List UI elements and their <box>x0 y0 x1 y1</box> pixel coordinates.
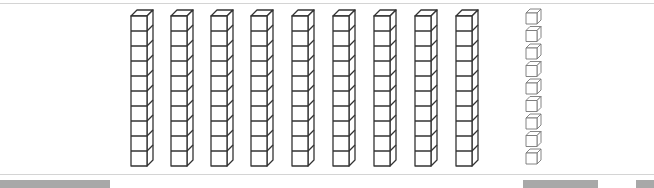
unit-cube <box>526 97 541 112</box>
scrollbar-segment[interactable] <box>0 180 110 188</box>
tens-rod <box>171 10 193 166</box>
tens-rod <box>292 10 314 166</box>
tens-rod <box>456 10 478 166</box>
tens-rod <box>415 10 437 166</box>
unit-cube <box>526 114 541 129</box>
tens-rod <box>374 10 396 166</box>
tens-rod <box>251 10 273 166</box>
unit-cube <box>526 132 541 147</box>
unit-cube <box>526 9 541 24</box>
tens-rod <box>211 10 233 166</box>
base-ten-blocks-diagram <box>0 0 654 188</box>
unit-cube <box>526 27 541 42</box>
unit-cube <box>526 62 541 77</box>
unit-cube <box>526 44 541 59</box>
scrollbar-segment[interactable] <box>636 180 654 188</box>
tens-rod <box>333 10 355 166</box>
tens-rod <box>131 10 153 166</box>
unit-cube <box>526 149 541 164</box>
scrollbar-segment[interactable] <box>523 180 598 188</box>
unit-cube <box>526 79 541 94</box>
